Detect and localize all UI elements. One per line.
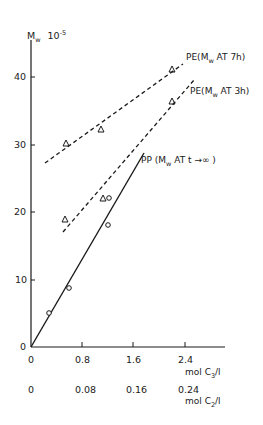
y-axis-title: Mw 10-5: [27, 29, 66, 44]
y-tick-10: 10: [15, 274, 27, 285]
y-tick-0: 0: [20, 341, 26, 352]
y-tick-20: 20: [14, 206, 26, 217]
x1-unit-text: mol C: [185, 367, 211, 377]
x-axis-unit-primary: mol C3/l: [185, 367, 221, 380]
x2-unit-text: mol C: [185, 396, 211, 406]
x-tick-1.6: 1.6: [126, 354, 141, 365]
legend-pe-7h: PE(Mw AT 7h): [186, 52, 245, 65]
y-axis-symbol: M: [27, 30, 35, 41]
x-tick-0: 0: [28, 354, 34, 365]
x-tick-0.8: 0.8: [75, 354, 90, 365]
x-axis-unit-secondary: mol C2/l: [185, 396, 221, 409]
pe-7h-line: [45, 64, 183, 163]
legend-pp: PP (Mw AT t →∞ ): [141, 155, 216, 168]
x2-tick-0.08: 0.08: [75, 384, 96, 395]
pe-7h-markers: [63, 66, 175, 146]
legend-pe-3h: PE(Mw AT 3h): [190, 86, 249, 99]
x-tick-2.4: 2.4: [178, 354, 193, 365]
y-tick-30: 30: [14, 139, 26, 150]
x2-tick-0.16: 0.16: [126, 384, 147, 395]
pe7-label-text: PE(M: [186, 52, 208, 62]
pp-line: [31, 153, 144, 347]
y-axis-sub: w: [35, 36, 40, 44]
y-tick-40: 40: [14, 71, 26, 82]
x2-tick-0: 0: [28, 384, 34, 395]
pe3-label-post: AT 3h): [218, 86, 250, 96]
pe7-label-post: AT 7h): [214, 52, 246, 62]
x1-unit-post: /l: [215, 367, 221, 377]
pe3-label-text: PE(M: [190, 86, 212, 96]
pp-label-text: PP (M: [141, 155, 166, 165]
y-axis-sup: -5: [60, 29, 66, 37]
y-axis-exp: 10: [48, 30, 60, 41]
x2-tick-0.24: 0.24: [178, 384, 199, 395]
pp-label-post: AT t →∞ ): [171, 155, 215, 165]
x2-unit-post: /l: [215, 396, 221, 406]
